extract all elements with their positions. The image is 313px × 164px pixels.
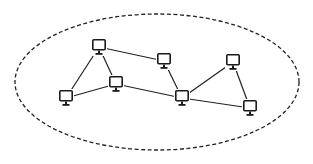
connection-line	[116, 84, 182, 98]
computer-monitor-icon	[225, 53, 241, 71]
computer-monitor-icon	[156, 52, 172, 70]
computer-monitor-icon	[108, 75, 124, 93]
computer-monitor-icon	[91, 38, 107, 56]
connection-line	[182, 98, 250, 108]
network-boundary-ellipse	[15, 14, 299, 150]
connection-line	[99, 47, 164, 61]
computer-monitor-icon	[58, 89, 74, 107]
network-diagram	[0, 0, 313, 164]
computer-monitor-icon	[174, 89, 190, 107]
computer-monitor-icon	[242, 99, 258, 117]
